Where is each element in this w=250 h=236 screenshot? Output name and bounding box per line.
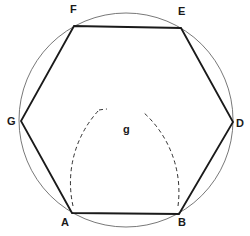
circumscribed-circle (19, 13, 233, 227)
label-vertex-a: A (61, 216, 69, 228)
construction-arc-from-a (143, 112, 179, 206)
label-vertex-b: B (178, 216, 186, 228)
label-arc-intersection-g: g (123, 123, 130, 135)
label-vertex-e: E (178, 5, 185, 17)
label-vertex-f: F (70, 3, 77, 15)
construction-arc-from-b (70, 110, 99, 206)
label-vertex-g: G (7, 115, 16, 127)
label-vertex-d: D (236, 117, 244, 129)
hexagon (21, 26, 233, 214)
construction-arc-from-b-tail (99, 109, 107, 110)
hexagon-construction-diagram: F E G D A B g (0, 0, 250, 236)
